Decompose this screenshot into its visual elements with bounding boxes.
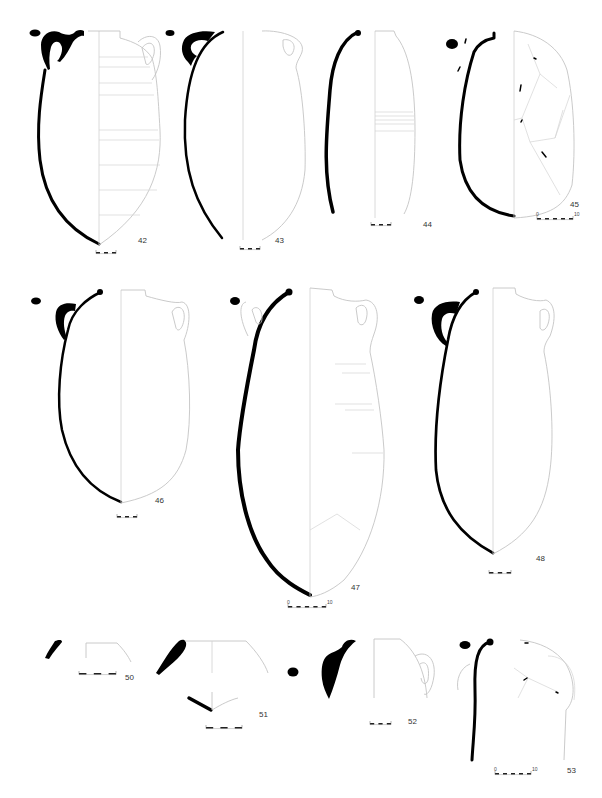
scale-bar-47: [288, 604, 326, 608]
scale-bar-45: [537, 216, 573, 220]
handle-section-45: [446, 39, 458, 49]
handle-section-48: [414, 296, 424, 304]
scale-end-47: 10: [327, 599, 333, 605]
outline-43: [262, 31, 305, 240]
scale-end-45: 10: [574, 211, 580, 217]
handle-outline-48: [540, 309, 549, 330]
sherd-marks-45: [520, 58, 546, 157]
base-profile-51: [189, 698, 211, 710]
handle-profile-48: [432, 302, 460, 347]
vessel-48: [414, 288, 554, 554]
wall-profile-46: [59, 292, 121, 502]
catalogue-number-44: 44: [423, 220, 432, 229]
handle-rim-profile-52: [322, 640, 356, 699]
base-outline-51: [212, 692, 238, 710]
vessel-52: [322, 639, 435, 699]
horizontal-lines-42: [99, 57, 160, 215]
scale-bar-48: [489, 570, 511, 574]
scale-bar-53: [495, 771, 531, 775]
outline-46: [121, 290, 190, 503]
outline-45: [514, 31, 574, 218]
wall-profile-45: [460, 33, 514, 216]
wall-profile-42: [39, 70, 99, 244]
outline-50: [86, 643, 131, 662]
outline-51: [246, 641, 268, 673]
vessel-53: [458, 639, 575, 761]
scale-bar-43: [240, 246, 260, 250]
catalogue-number-48: 48: [536, 554, 545, 563]
outline-52: [374, 639, 427, 698]
horizontal-lines-47: [310, 364, 383, 530]
vessel-45: [446, 31, 574, 218]
handle-outline-46: [172, 307, 184, 330]
handle-outline-42: [138, 36, 161, 80]
scale-start-53: 0: [494, 766, 497, 772]
handle-section-43: [166, 30, 175, 36]
catalogue-number-51: 51: [259, 710, 268, 719]
scale-start-47: 0: [287, 599, 290, 605]
rim-profile-51: [156, 640, 186, 675]
catalogue-number-53: 53: [567, 766, 576, 775]
wall-profile-47: [238, 292, 310, 595]
scale-bar-44: [371, 222, 391, 226]
outline-48: [493, 288, 554, 554]
scale-bar-46: [117, 514, 137, 518]
sherd-lines-53: [514, 656, 575, 700]
wall-profile-44: [326, 32, 358, 212]
vessel-51: [156, 640, 299, 710]
catalogue-number-50: 50: [125, 673, 134, 682]
handle-section-53: [460, 641, 471, 649]
handle-outline-43: [283, 40, 294, 56]
rim-handle-profile-42: [41, 30, 84, 70]
scale-bar-42: [96, 250, 116, 254]
sherd-marks-53: [524, 643, 558, 693]
handle-section-46: [31, 298, 41, 305]
horizontal-lines-44: [375, 112, 414, 131]
scale-end-53: 10: [532, 766, 538, 772]
catalogue-number-45: 45: [570, 200, 579, 209]
handle-section-47: [230, 297, 240, 305]
vessel-46: [31, 289, 190, 503]
catalogue-number-43: 43: [275, 236, 284, 245]
scale-bar-50: [79, 671, 116, 675]
scale-bar-51: [206, 725, 242, 729]
catalogue-number-47: 47: [351, 583, 360, 592]
scale-start-45: 0: [536, 211, 539, 217]
catalogue-number-46: 46: [155, 496, 164, 505]
catalogue-number-52: 52: [408, 717, 417, 726]
wall-profile-48: [436, 292, 493, 553]
vessel-47: [230, 288, 384, 597]
vessel-43: [166, 30, 306, 240]
outline-47: [310, 288, 384, 597]
wall-profile-53: [472, 642, 490, 760]
scale-bar-52: [370, 721, 391, 725]
handle-section-51: [288, 668, 299, 677]
handle-section-42: [30, 30, 41, 37]
handle-profile-43: [182, 31, 215, 66]
vessel-50: [45, 640, 131, 662]
vessel-42: [30, 30, 161, 247]
pottery-plate: .sec{fill:#000;} .secl{fill:none;stroke:…: [0, 0, 602, 798]
outline-44: [375, 31, 415, 214]
vessel-44: [326, 30, 415, 218]
catalogue-number-42: 42: [138, 236, 147, 245]
rim-profile-50: [45, 640, 62, 659]
